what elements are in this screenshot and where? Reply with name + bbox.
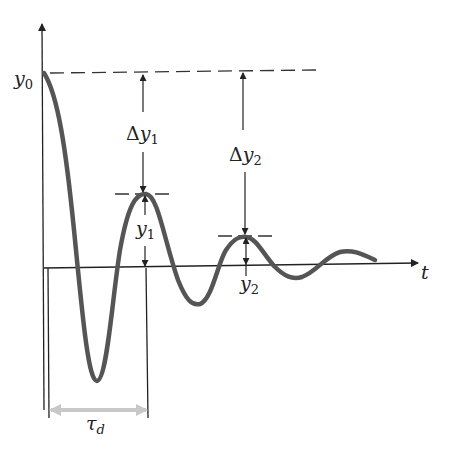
y2-label: y2 (239, 272, 259, 297)
dy1-label: Δy1 (126, 122, 159, 147)
y1-label: y1 (135, 217, 155, 242)
tau-left-line (48, 268, 49, 418)
dy2-label: Δy2 (229, 143, 262, 168)
tau-d-label: τd (86, 412, 105, 437)
t-axis-label: t (421, 261, 429, 283)
peak1-vertical-line (146, 268, 148, 418)
t-axis (44, 263, 418, 268)
y0-label: y0 (13, 67, 33, 92)
y-axis (42, 24, 44, 410)
response-curve (44, 73, 375, 381)
damped-oscillation-diagram: y0 Δy1 Δy2 y1 y2 t τd (0, 0, 452, 454)
y0-reference-line (50, 70, 318, 73)
